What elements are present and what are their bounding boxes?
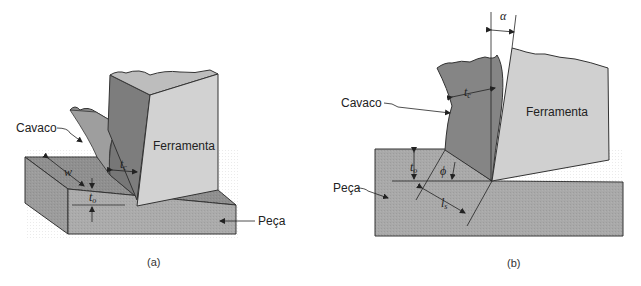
label-workpiece-b: Peça: [333, 181, 361, 195]
label-width: w: [64, 165, 72, 179]
caption-a: (a): [147, 256, 160, 268]
label-shear-angle: ϕ: [440, 164, 446, 178]
label-tool-b: Ferramenta: [526, 105, 588, 119]
label-tool-a: Ferramenta: [153, 139, 215, 153]
label-workpiece-a: Peça: [258, 214, 286, 228]
panel-a: Cavaco Ferramenta Peça w tc to (a): [16, 70, 286, 268]
panel-b: α Cavaco Ferramenta Peça tc to ϕ ls (b): [333, 9, 623, 269]
label-rake-angle: α: [500, 9, 507, 23]
orthogonal-cutting-diagram: Cavaco Ferramenta Peça w tc to (a): [0, 0, 641, 286]
label-chip-a: Cavaco: [16, 121, 57, 135]
caption-b: (b): [507, 257, 520, 269]
label-chip-b: Cavaco: [341, 96, 382, 110]
